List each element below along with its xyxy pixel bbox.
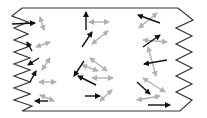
black-arrow-icon [138, 15, 160, 23]
black-arrow-icon [137, 82, 150, 94]
gray-double-arrows [36, 13, 167, 101]
gray-double-arrow-icon [42, 58, 50, 70]
black-arrow-icon [144, 60, 167, 64]
gray-double-arrow-icon [82, 65, 98, 71]
diagram-stage [0, 0, 207, 118]
block-diagram [0, 0, 207, 118]
gray-double-arrow-icon [40, 95, 54, 101]
gray-double-arrow-icon [137, 96, 160, 100]
gray-double-arrow-icon [100, 90, 112, 101]
gray-double-arrow-icon [40, 17, 44, 30]
black-arrow-icon [82, 32, 92, 47]
gray-double-arrow-icon [36, 42, 50, 47]
gray-double-arrow-icon [143, 40, 167, 42]
black-arrow-icon [12, 23, 35, 24]
black-arrow-icon [74, 61, 84, 76]
gray-double-arrow-icon [92, 31, 108, 44]
black-arrow-icon [28, 58, 39, 65]
black-arrow-icon [30, 71, 36, 82]
